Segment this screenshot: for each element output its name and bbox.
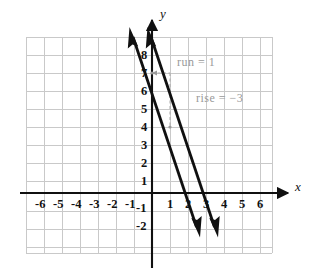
x-tick-label-neg4: -4 xyxy=(71,198,81,211)
x-tick-label-3: 3 xyxy=(203,198,209,211)
x-tick-label-5: 5 xyxy=(239,198,245,211)
run-annotation-label: run = 1 xyxy=(177,56,215,68)
rise-annotation-label: rise = −3 xyxy=(196,92,243,104)
y-tick-label-3: 3 xyxy=(141,139,147,152)
y-tick-label-8: 8 xyxy=(141,49,147,62)
y-axis-label: y xyxy=(160,7,166,20)
y-tick-label-4: 4 xyxy=(141,121,147,134)
grid-lines xyxy=(26,37,272,253)
line-2-arrowhead-bottom xyxy=(209,216,219,237)
line-1-arrowhead-top xyxy=(128,27,138,48)
x-tick-label-neg6: -6 xyxy=(35,198,45,211)
y-tick-label-neg1: -1 xyxy=(136,202,146,215)
x-axis-label: x xyxy=(295,180,301,193)
x-tick-label-6: 6 xyxy=(257,198,263,211)
graph-canvas xyxy=(0,0,316,280)
x-tick-label-1: 1 xyxy=(167,198,173,211)
y-tick-label-2: 2 xyxy=(141,157,147,170)
line-1-arrowhead-bottom xyxy=(191,216,201,237)
coordinate-graph-figure: y x -6 -5 -4 -3 -2 -1 1 2 3 4 5 6 8 7 6 … xyxy=(0,0,316,280)
x-tick-label-neg3: -3 xyxy=(89,198,99,211)
axis-lines xyxy=(20,20,288,268)
x-tick-label-neg5: -5 xyxy=(53,198,63,211)
y-tick-label-neg2: -2 xyxy=(136,220,146,233)
y-tick-label-5: 5 xyxy=(141,103,147,116)
x-tick-label-2: 2 xyxy=(185,198,191,211)
rise-end-dot xyxy=(168,125,171,128)
y-tick-label-6: 6 xyxy=(141,85,147,98)
y-tick-label-7: 7 xyxy=(141,67,147,80)
y-tick-label-1: 1 xyxy=(141,175,147,188)
x-tick-label-4: 4 xyxy=(221,198,227,211)
x-tick-label-neg2: -2 xyxy=(107,198,117,211)
x-tick-label-neg1: -1 xyxy=(125,198,135,211)
